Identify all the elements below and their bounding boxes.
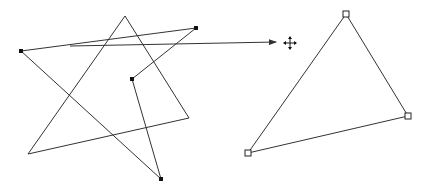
source-polygon[interactable] (19, 26, 198, 181)
drawing-canvas[interactable] (0, 0, 431, 193)
move-arrow (70, 42, 276, 46)
vertex-handle[interactable] (130, 77, 134, 81)
vertex-handle[interactable] (159, 177, 163, 181)
vertex-handle[interactable] (194, 26, 198, 30)
arrow-line (70, 42, 276, 46)
polygon-outline (21, 28, 196, 179)
polygon-outline (248, 14, 408, 153)
move-cursor-icon (283, 36, 297, 50)
vertex-handle[interactable] (405, 113, 411, 119)
vertex-handle[interactable] (245, 150, 251, 156)
vertex-handle[interactable] (19, 49, 23, 53)
vertex-handle[interactable] (343, 11, 349, 17)
star-triangle (28, 16, 189, 154)
polygon-outline (28, 16, 189, 154)
target-triangle[interactable] (245, 11, 411, 156)
